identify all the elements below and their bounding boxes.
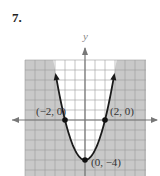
chart: (−2, 0)(2, 0)(0, −4) y: [0, 0, 160, 176]
point-label: (2, 0): [110, 105, 134, 118]
y-axis-arrow-up: [82, 47, 88, 55]
x-axis-arrow-right: [151, 117, 158, 123]
y-axis-label: y: [82, 30, 88, 42]
point-label: (−2, 0): [36, 105, 66, 118]
x-axis-arrow-left: [12, 117, 19, 123]
point-marker: [82, 157, 88, 163]
point-label: (0, −4): [91, 156, 121, 169]
point-marker: [62, 117, 68, 123]
point-marker: [102, 117, 108, 123]
